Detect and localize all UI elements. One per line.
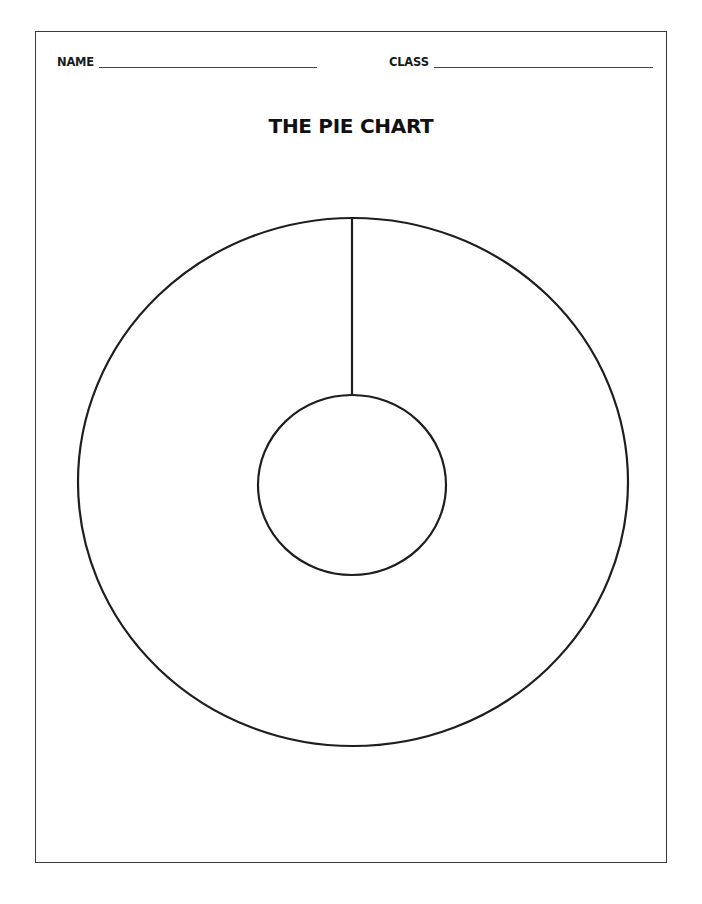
inner-circle bbox=[258, 395, 446, 575]
pie-chart-diagram bbox=[0, 0, 702, 904]
